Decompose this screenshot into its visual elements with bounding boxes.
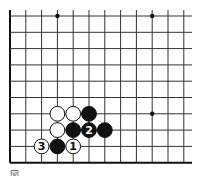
- diagram-caption: 図: [10, 168, 19, 176]
- black-stone: [50, 139, 65, 154]
- move-number: 3: [38, 140, 46, 153]
- star-point-icon: [150, 14, 154, 18]
- black-stone: [97, 123, 112, 138]
- white-stone: [66, 106, 81, 121]
- black-stone: 2: [82, 123, 97, 138]
- white-stone: 3: [34, 139, 49, 154]
- white-stone: [50, 123, 65, 138]
- white-stone: [50, 106, 65, 121]
- star-point-icon: [150, 112, 154, 116]
- go-board-diagram: 231: [0, 0, 202, 176]
- black-stone: [82, 106, 97, 121]
- move-number: 2: [85, 124, 93, 137]
- move-number: 1: [69, 140, 77, 153]
- star-point-icon: [55, 14, 59, 18]
- black-stone: [66, 123, 81, 138]
- white-stone: 1: [66, 139, 81, 154]
